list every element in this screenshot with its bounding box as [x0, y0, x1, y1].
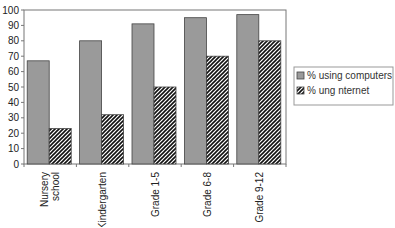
svg-text:Grade 6-8: Grade 6-8 [202, 172, 213, 217]
bar-computers [237, 15, 259, 164]
y-tick-label: 40 [8, 97, 20, 108]
svg-text:Grade 1-5: Grade 1-5 [150, 172, 161, 217]
bar-internet [259, 41, 281, 164]
plot-area: 0102030405060708090100NurseryschoolKinde… [2, 5, 286, 228]
y-tick-label: 80 [8, 35, 20, 46]
bar-chart: 0102030405060708090100NurseryschoolKinde… [0, 0, 395, 227]
bar-computers [80, 41, 102, 164]
legend-label: % ung nternet [307, 85, 369, 96]
bar-internet [206, 56, 228, 164]
bar-internet [102, 115, 124, 164]
svg-text:school: school [50, 172, 61, 201]
svg-text:Nursery: Nursery [39, 172, 50, 207]
y-tick-label: 50 [8, 82, 20, 93]
legend-swatch [297, 72, 304, 79]
svg-text:Kindergarten: Kindergarten [97, 172, 108, 227]
y-tick-label: 0 [13, 159, 19, 170]
y-tick-label: 90 [8, 20, 20, 31]
bar-computers [132, 24, 154, 164]
x-category-label: Grade 6-8 [202, 172, 213, 217]
legend-label: % using computers [307, 70, 392, 81]
bar-internet [49, 129, 71, 164]
bar-computers [184, 18, 206, 164]
y-tick-label: 100 [2, 5, 19, 16]
y-tick-label: 20 [8, 128, 20, 139]
y-tick-label: 60 [8, 66, 20, 77]
legend: % using computers% ung nternet [294, 67, 393, 105]
x-category-label: Grade 9-12 [254, 172, 265, 223]
x-category-label: Nurseryschool [39, 172, 61, 207]
x-category-label: Grade 1-5 [150, 172, 161, 217]
legend-swatch [297, 87, 304, 94]
y-tick-label: 30 [8, 112, 20, 123]
svg-text:Grade 9-12: Grade 9-12 [254, 172, 265, 223]
y-tick-label: 10 [8, 143, 20, 154]
bar-computers [27, 61, 49, 164]
bar-internet [154, 87, 176, 164]
x-category-label: Kindergarten [97, 172, 108, 227]
y-tick-label: 70 [8, 51, 20, 62]
